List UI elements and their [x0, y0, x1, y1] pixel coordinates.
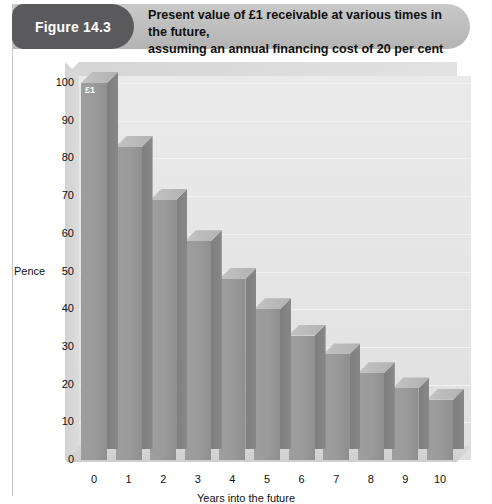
bar-side-face: [245, 268, 256, 449]
x-tick-label: 10: [425, 473, 455, 485]
bar-3: [185, 230, 222, 460]
bar-4: [219, 268, 256, 460]
x-axis-title: Years into the future: [0, 492, 492, 504]
bar-8: [358, 362, 395, 460]
bar-side-face: [176, 189, 187, 449]
y-tick-label: 80: [44, 151, 74, 163]
bar-side-face: [384, 362, 395, 449]
bar-chart: £1 0102030405060708090100 012345678910 P…: [0, 52, 492, 501]
bar-side-face: [280, 298, 291, 449]
y-tick-label: 10: [44, 415, 74, 427]
y-tick-label: 30: [44, 340, 74, 352]
figure-number-badge: Figure 14.3: [12, 4, 134, 49]
y-tick-label: 100: [44, 76, 74, 88]
bar-side-face: [349, 343, 360, 449]
y-tick-label: 60: [44, 227, 74, 239]
bar-front-face: [116, 147, 142, 460]
x-tick-label: 6: [287, 473, 317, 485]
x-tick-label: 3: [183, 473, 213, 485]
x-tick-label: 5: [252, 473, 282, 485]
bar-5: [254, 298, 291, 460]
bar-front-face: [427, 400, 453, 460]
bar-side-face: [418, 377, 429, 449]
x-tick-label: 8: [356, 473, 386, 485]
bar-side-face: [107, 72, 118, 449]
bar-side-face: [315, 325, 326, 449]
bar-front-face: [392, 388, 418, 460]
bar-front-face: [323, 354, 349, 460]
x-tick-label: 4: [217, 473, 247, 485]
y-tick-label: 90: [44, 114, 74, 126]
x-tick-label: 9: [390, 473, 420, 485]
bar-side-face: [142, 136, 153, 449]
bar-front-face: [254, 309, 280, 460]
bar-10: [427, 389, 464, 460]
bar-front-face: [358, 373, 384, 460]
figure-title-line-1: Present value of £1 receivable at variou…: [148, 8, 442, 39]
bar-1: [116, 136, 153, 460]
bar-side-face: [211, 230, 222, 449]
bar-front-face: [185, 241, 211, 460]
x-tick-label: 2: [148, 473, 178, 485]
bar-0: £1: [81, 72, 118, 460]
bar-2: [150, 189, 187, 460]
x-tick-label: 0: [79, 473, 109, 485]
bar-front-face: [81, 83, 107, 460]
bar-front-face: [150, 200, 176, 460]
y-tick-label: 0: [44, 453, 74, 465]
figure-number-label: Figure 14.3: [35, 19, 111, 35]
bar-6: [289, 325, 326, 460]
figure-title: Present value of £1 receivable at variou…: [148, 7, 460, 58]
bar-7: [323, 343, 360, 460]
y-tick-label: 50: [44, 265, 74, 277]
y-tick-label: 20: [44, 378, 74, 390]
y-tick-label: 70: [44, 189, 74, 201]
bar-front-face: [219, 279, 245, 460]
y-axis-title: Pence: [14, 265, 45, 277]
bar-annotation-label: £1: [85, 85, 95, 95]
bar-9: [392, 377, 429, 460]
x-tick-label: 7: [321, 473, 351, 485]
x-tick-label: 1: [114, 473, 144, 485]
bar-front-face: [289, 336, 315, 460]
y-tick-label: 40: [44, 302, 74, 314]
